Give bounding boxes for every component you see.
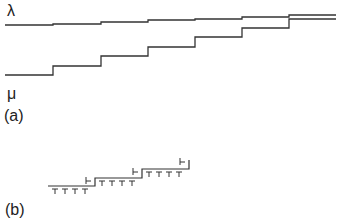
panel-b-plot bbox=[0, 0, 343, 224]
staircase-line bbox=[48, 160, 189, 186]
t-markers bbox=[52, 172, 182, 194]
hook-markers bbox=[86, 158, 185, 184]
